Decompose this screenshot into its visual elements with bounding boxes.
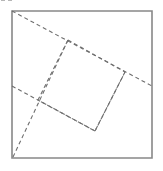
ray-top-left-to-right-edge-seg (12, 11, 152, 86)
outer-square (12, 11, 152, 158)
inner-tilted-square (38, 40, 125, 131)
geometry-canvas (0, 0, 163, 171)
ray-bottom-left-corner-to-top-vertex (13, 40, 68, 157)
geometry-figure (0, 0, 163, 171)
